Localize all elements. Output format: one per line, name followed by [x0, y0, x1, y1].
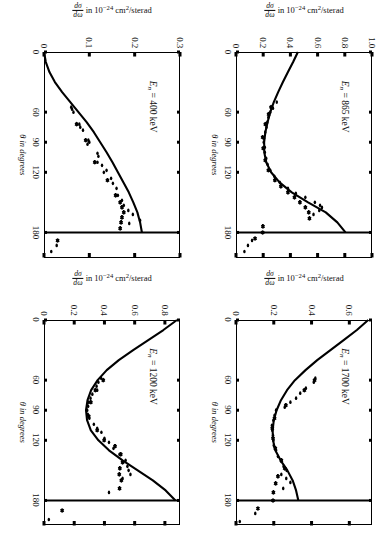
- y-axis-title: dσ dω in 10−24 cm2/sterad: [264, 269, 343, 285]
- y-axis-units: in 10−24 cm2/sterad: [84, 5, 152, 15]
- x-tick-label: 180: [31, 226, 41, 240]
- x-tick-label: 60: [223, 375, 233, 384]
- x-tick-label: 120: [31, 166, 41, 180]
- panel-865kev: 00.20.40.60.81.006090120180 En = 865 keV…: [192, 0, 384, 268]
- y-axis-units: in 10−24 cm2/sterad: [276, 5, 344, 15]
- x-tick-label: 0: [31, 317, 41, 322]
- y-axis-title: dσ dω in 10−24 cm2/sterad: [264, 2, 343, 18]
- y-tick-label: 0.8: [340, 37, 350, 48]
- x-tick-label: 180: [223, 493, 233, 507]
- y-tick-label: 0.4: [285, 37, 295, 48]
- plot-area-1200kev: 00.20.40.60.806090120180 En = 1200 keV θ…: [44, 320, 180, 526]
- y-tick-label: 0.4: [99, 305, 109, 316]
- plot-svg-1700kev: [236, 320, 372, 526]
- y-tick-label: 0.8: [160, 305, 170, 316]
- x-tick-label: 120: [223, 166, 233, 180]
- energy-label-865kev: En = 865 keV: [339, 81, 351, 133]
- plot-svg-1200kev: [44, 320, 180, 526]
- x-tick-label: 90: [223, 405, 233, 414]
- y-tick-label: 0.2: [69, 305, 79, 316]
- y-axis-fraction: dσ dω: [264, 269, 275, 285]
- y-tick-label: 0: [39, 44, 49, 48]
- x-tick-label: 180: [31, 493, 41, 507]
- panel-400kev: 00.10.20.306090120180 En = 400 keV θ in …: [0, 0, 192, 268]
- plot-svg-400kev: [44, 52, 180, 258]
- panel-1700kev: 00.20.40.606090120180 En = 1700 keV θ in…: [192, 268, 384, 535]
- energy-label-1200kev: En = 1200 keV: [147, 348, 159, 405]
- x-tick-label: 120: [31, 433, 41, 447]
- panel-1200kev: 00.20.40.60.806090120180 En = 1200 keV θ…: [0, 268, 192, 535]
- x-axis-title: θ in degrees: [18, 134, 28, 175]
- x-tick-label: 0: [223, 50, 233, 55]
- y-tick-label: 0: [39, 311, 49, 315]
- x-axis-title: θ in degrees: [18, 402, 28, 443]
- y-tick-label: 0: [231, 311, 241, 315]
- y-axis-fraction: dσ dω: [264, 2, 275, 18]
- y-tick-label: 0.2: [258, 37, 268, 48]
- y-axis-units: in 10−24 cm2/sterad: [84, 272, 152, 282]
- plot-svg-865kev: [236, 52, 372, 258]
- x-axis-title: θ in degrees: [210, 402, 220, 443]
- y-axis-fraction: dσ dω: [72, 2, 83, 18]
- panel-grid: 00.20.40.60.81.006090120180 En = 865 keV…: [0, 0, 384, 535]
- x-tick-label: 180: [223, 226, 233, 240]
- x-tick-label: 0: [223, 317, 233, 322]
- x-tick-label: 60: [31, 375, 41, 384]
- x-axis-title: θ in degrees: [210, 134, 220, 175]
- y-tick-label: 0.6: [344, 305, 354, 316]
- x-tick-label: 60: [223, 108, 233, 117]
- y-tick-label: 0.2: [269, 305, 279, 316]
- y-tick-label: 0: [231, 44, 241, 48]
- energy-label-1700kev: En = 1700 keV: [339, 348, 351, 405]
- x-tick-label: 120: [223, 433, 233, 447]
- y-axis-title: dσ dω in 10−24 cm2/sterad: [72, 269, 151, 285]
- plot-area-865kev: 00.20.40.60.81.006090120180 En = 865 keV…: [236, 52, 372, 258]
- y-tick-label: 0.1: [84, 37, 94, 48]
- y-tick-label: 1.0: [367, 37, 377, 48]
- y-axis-units: in 10−24 cm2/sterad: [276, 272, 344, 282]
- y-tick-label: 0.3: [175, 37, 185, 48]
- x-tick-label: 90: [31, 405, 41, 414]
- x-tick-label: 0: [31, 50, 41, 55]
- figure-page: 00.20.40.60.81.006090120180 En = 865 keV…: [0, 0, 384, 535]
- y-axis-title: dσ dω in 10−24 cm2/sterad: [72, 2, 151, 18]
- y-tick-label: 0.6: [313, 37, 323, 48]
- energy-label-400kev: En = 400 keV: [147, 81, 159, 133]
- plot-area-1700kev: 00.20.40.606090120180 En = 1700 keV θ in…: [236, 320, 372, 526]
- x-tick-label: 90: [31, 138, 41, 147]
- x-tick-label: 90: [223, 138, 233, 147]
- y-tick-label: 0.4: [307, 305, 317, 316]
- x-tick-label: 60: [31, 108, 41, 117]
- plot-area-400kev: 00.10.20.306090120180 En = 400 keV θ in …: [44, 52, 180, 258]
- y-tick-label: 0.6: [130, 305, 140, 316]
- y-axis-fraction: dσ dω: [72, 269, 83, 285]
- y-tick-label: 0.2: [130, 37, 140, 48]
